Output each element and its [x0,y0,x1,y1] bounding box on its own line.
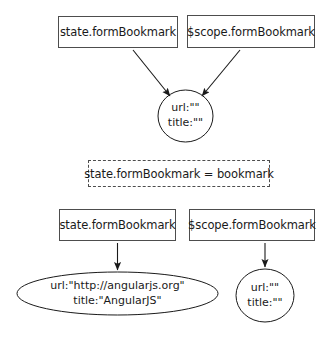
edge-top-scope-to-circle [202,50,240,96]
node-top-scope-formbookmark[interactable]: $scope.formBookmark [187,15,315,48]
node-top-state-formbookmark[interactable]: state.formBookmark [58,16,178,48]
bottom-circle-shape [236,269,294,322]
node-bottom-scope-formbookmark[interactable]: $scope.formBookmark [189,209,315,241]
diagram-canvas: state.formBookmark $scope.formBookmark u… [0,0,334,341]
edge-top-state-to-circle [133,50,170,96]
bottom-ellipse-shape [17,272,218,315]
top-circle-shape [158,90,213,142]
node-bottom-state-formbookmark[interactable]: state.formBookmark [59,209,176,241]
node-assignment-statement[interactable]: state.formBookmark = bookmark [88,160,270,187]
